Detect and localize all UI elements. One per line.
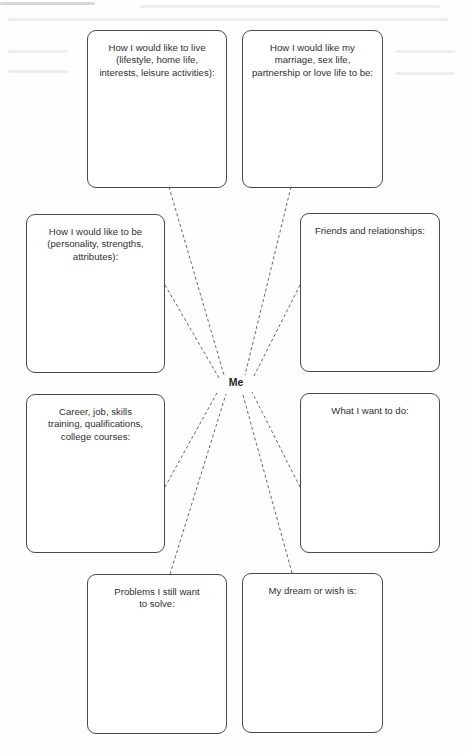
connector-problems	[170, 394, 226, 574]
box-personality-label: How I would like to be (personality, str…	[33, 226, 158, 263]
connector-want-to-do	[252, 392, 300, 487]
connector-lifestyle	[169, 187, 224, 375]
box-personality: How I would like to be (personality, str…	[26, 214, 165, 373]
box-friends-label: Friends and relationships:	[307, 225, 433, 237]
connector-career	[165, 391, 218, 487]
box-career: Career, job, skills training, qualificat…	[26, 394, 165, 553]
box-friends: Friends and relationships:	[300, 213, 440, 372]
center-node-me: Me	[222, 376, 250, 388]
box-relationship: How I would like my marriage, sex life, …	[242, 30, 383, 188]
box-lifestyle: How I would like to live (lifestyle, hom…	[87, 30, 227, 188]
box-want-to-do: What I want to do:	[300, 393, 440, 553]
connector-relationship	[245, 187, 291, 375]
connector-friends	[253, 285, 300, 378]
box-career-label: Career, job, skills training, qualificat…	[33, 406, 158, 443]
box-problems-label: Problems I still want to solve:	[94, 586, 220, 611]
box-problems: Problems I still want to solve:	[87, 574, 227, 734]
box-lifestyle-label: How I would like to live (lifestyle, hom…	[94, 42, 220, 79]
box-dream-label: My dream or wish is:	[249, 585, 376, 597]
worksheet-page: How I would like to live (lifestyle, hom…	[0, 0, 466, 754]
box-want-to-do-label: What I want to do:	[307, 405, 433, 417]
box-relationship-label: How I would like my marriage, sex life, …	[249, 42, 376, 79]
box-dream: My dream or wish is:	[242, 573, 383, 733]
